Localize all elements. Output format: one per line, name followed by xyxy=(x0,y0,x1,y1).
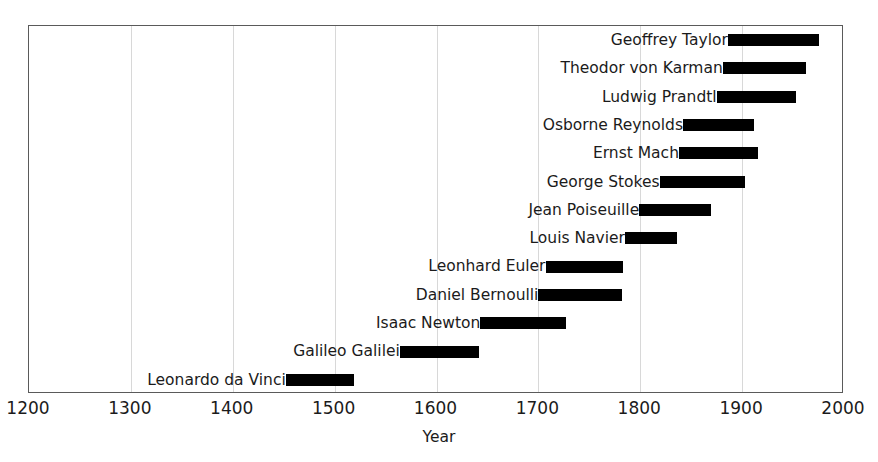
bar-row: Ernst Mach xyxy=(29,139,842,167)
lifespan-bar xyxy=(480,317,566,329)
bar-label: Osborne Reynolds xyxy=(0,113,690,137)
x-tick-label: 2000 xyxy=(821,398,864,418)
bar-label: George Stokes xyxy=(0,170,667,194)
bar-row: Ludwig Prandtl xyxy=(29,83,842,111)
lifespan-bar xyxy=(660,176,746,188)
bar-label: Louis Navier xyxy=(0,226,632,250)
bar-label: Theodor von Karman xyxy=(0,56,730,80)
bar-row: Louis Navier xyxy=(29,224,842,252)
bar-row: Geoffrey Taylor xyxy=(29,26,842,54)
lifespan-bar xyxy=(683,119,754,131)
lifespan-bar xyxy=(625,232,677,244)
lifespan-bar xyxy=(717,91,796,103)
bar-row: Osborne Reynolds xyxy=(29,111,842,139)
x-axis-tick-labels: 120013001400150016001700180019002000 xyxy=(0,398,878,426)
lifespan-bar xyxy=(679,147,758,159)
x-tick-label: 1200 xyxy=(6,398,49,418)
lifespan-bar xyxy=(723,62,807,74)
bar-row: Isaac Newton xyxy=(29,309,842,337)
bar-label: Jean Poiseuille xyxy=(0,198,646,222)
bar-label: Isaac Newton xyxy=(0,311,487,335)
x-tick-label: 1900 xyxy=(719,398,762,418)
x-tick-label: 1600 xyxy=(414,398,457,418)
bar-label: Daniel Bernoulli xyxy=(0,283,545,307)
x-tick-label: 1500 xyxy=(312,398,355,418)
x-tick-label: 1800 xyxy=(618,398,661,418)
x-tick-label: 1300 xyxy=(108,398,151,418)
plot-area: Geoffrey TaylorTheodor von KarmanLudwig … xyxy=(28,25,843,393)
bar-row: George Stokes xyxy=(29,168,842,196)
bar-row: Jean Poiseuille xyxy=(29,196,842,224)
lifespan-bar xyxy=(546,261,623,273)
bar-row: Theodor von Karman xyxy=(29,54,842,82)
bar-label: Galileo Galilei xyxy=(0,339,407,363)
bar-row: Leonardo da Vinci xyxy=(29,366,842,394)
bar-label: Geoffrey Taylor xyxy=(0,28,735,52)
lifespan-bar xyxy=(639,204,710,216)
lifespan-bar xyxy=(538,289,622,301)
bars-layer: Geoffrey TaylorTheodor von KarmanLudwig … xyxy=(29,26,842,392)
lifespan-timeline-chart: Geoffrey TaylorTheodor von KarmanLudwig … xyxy=(0,0,878,462)
lifespan-bar xyxy=(286,374,354,386)
x-tick-label: 1400 xyxy=(210,398,253,418)
x-tick-label: 1700 xyxy=(516,398,559,418)
bar-label: Ludwig Prandtl xyxy=(0,85,724,109)
lifespan-bar xyxy=(728,34,819,46)
bar-label: Ernst Mach xyxy=(0,141,686,165)
bar-row: Daniel Bernoulli xyxy=(29,281,842,309)
bar-row: Galileo Galilei xyxy=(29,337,842,365)
bar-label: Leonardo da Vinci xyxy=(0,368,293,392)
lifespan-bar xyxy=(400,346,479,358)
bar-row: Leonhard Euler xyxy=(29,252,842,280)
bar-label: Leonhard Euler xyxy=(0,254,553,278)
x-axis-title: Year xyxy=(0,428,878,446)
